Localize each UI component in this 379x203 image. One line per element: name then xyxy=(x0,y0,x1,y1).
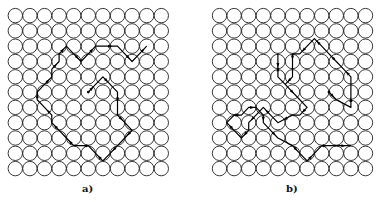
lattice-site xyxy=(23,70,37,84)
walk-start-dot xyxy=(328,91,331,94)
lattice-site xyxy=(23,146,37,160)
lattice-site xyxy=(227,85,241,99)
lattice-site xyxy=(81,8,95,22)
lattice-site xyxy=(285,8,299,22)
lattice-site xyxy=(358,54,372,68)
lattice-site xyxy=(125,116,139,130)
lattice-site xyxy=(285,161,299,175)
lattice-site xyxy=(242,70,256,84)
lattice-site xyxy=(154,54,168,68)
lattice-site xyxy=(344,24,358,38)
walk-arrowhead xyxy=(341,144,345,147)
lattice-site xyxy=(96,116,110,130)
lattice-site xyxy=(227,131,241,145)
lattice-site xyxy=(8,161,22,175)
lattice-site xyxy=(52,161,66,175)
lattice-site xyxy=(315,116,329,130)
walk-arrowhead xyxy=(262,117,265,121)
lattice-site xyxy=(154,24,168,38)
lattice-site xyxy=(52,85,66,99)
lattice-site xyxy=(140,100,154,114)
lattice-site xyxy=(358,146,372,160)
lattice-site xyxy=(256,85,270,99)
lattice-site xyxy=(8,85,22,99)
lattice-site xyxy=(285,24,299,38)
lattice-site xyxy=(315,54,329,68)
walk-arrowhead xyxy=(276,63,279,67)
lattice-site xyxy=(154,116,168,130)
walk-arrowhead xyxy=(291,55,294,59)
lattice-site xyxy=(110,8,124,22)
lattice-site xyxy=(285,100,299,114)
lattice-site xyxy=(8,116,22,130)
lattice-site xyxy=(96,131,110,145)
lattice-site xyxy=(140,54,154,68)
lattice-site xyxy=(256,24,270,38)
lattice-site xyxy=(271,146,285,160)
lattice-site xyxy=(110,131,124,145)
lattice-site xyxy=(227,100,241,114)
lattice-site xyxy=(125,146,139,160)
lattice-site xyxy=(67,70,81,84)
lattice-site xyxy=(256,39,270,53)
lattice-site xyxy=(242,85,256,99)
lattice-site xyxy=(154,70,168,84)
lattice-site xyxy=(96,100,110,114)
lattice-site xyxy=(256,161,270,175)
lattice-site xyxy=(227,161,241,175)
lattice-site xyxy=(81,24,95,38)
lattice-site xyxy=(52,8,66,22)
lattice-site xyxy=(242,54,256,68)
lattice-site xyxy=(81,100,95,114)
lattice-site xyxy=(8,8,22,22)
lattice-site xyxy=(358,100,372,114)
lattice-site xyxy=(96,161,110,175)
lattice-site xyxy=(37,131,51,145)
figure-canvas xyxy=(0,0,379,203)
lattice-site xyxy=(67,100,81,114)
lattice-site xyxy=(140,131,154,145)
lattice-site xyxy=(271,161,285,175)
panel-a-label: a) xyxy=(82,183,93,194)
lattice-site xyxy=(315,8,329,22)
lattice-site xyxy=(329,39,343,53)
lattice-site xyxy=(358,70,372,84)
lattice-site xyxy=(8,131,22,145)
lattice-site xyxy=(125,39,139,53)
lattice-site xyxy=(329,131,343,145)
lattice-site xyxy=(256,70,270,84)
lattice-site xyxy=(67,54,81,68)
walk-arrowhead xyxy=(276,67,279,71)
lattice-site xyxy=(96,85,110,99)
lattice-site xyxy=(96,146,110,160)
lattice-site xyxy=(52,39,66,53)
lattice-site xyxy=(23,54,37,68)
panel-a-lattice xyxy=(8,8,168,175)
lattice-site xyxy=(315,70,329,84)
lattice-site xyxy=(212,85,226,99)
lattice-site xyxy=(67,146,81,160)
lattice-site xyxy=(300,116,314,130)
lattice-site xyxy=(140,24,154,38)
lattice-site xyxy=(81,39,95,53)
lattice-site xyxy=(271,85,285,99)
lattice-site xyxy=(37,161,51,175)
lattice-site xyxy=(344,146,358,160)
lattice-site xyxy=(154,146,168,160)
lattice-site xyxy=(23,116,37,130)
lattice-site xyxy=(300,70,314,84)
lattice-site xyxy=(242,146,256,160)
walk-arrowhead xyxy=(250,106,254,109)
lattice-site xyxy=(110,116,124,130)
lattice-site xyxy=(227,116,241,130)
lattice-site xyxy=(81,161,95,175)
lattice-site xyxy=(315,100,329,114)
walk-start-dot xyxy=(87,91,90,94)
lattice-site xyxy=(344,116,358,130)
lattice-site xyxy=(37,70,51,84)
lattice-site xyxy=(271,100,285,114)
lattice-site xyxy=(125,8,139,22)
lattice-site xyxy=(125,70,139,84)
lattice-site xyxy=(212,100,226,114)
lattice-site xyxy=(329,8,343,22)
